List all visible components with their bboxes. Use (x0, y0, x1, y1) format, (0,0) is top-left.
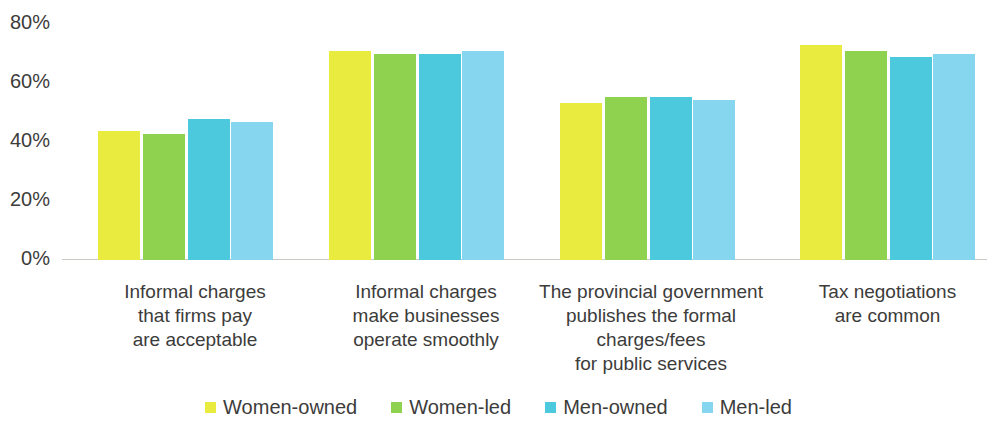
y-tick-label: 20% (10, 189, 50, 209)
bar-men-owned (890, 57, 932, 260)
legend-item-men-led: Men-led (702, 396, 792, 418)
bar-men-owned (650, 97, 692, 260)
y-tick-label: 40% (10, 130, 50, 150)
bar-men-led (462, 51, 504, 260)
bar-men-owned (188, 119, 230, 260)
legend: Women-owned Women-led Men-owned Men-led (0, 396, 997, 418)
bar-men-led (693, 100, 735, 260)
bar-group (560, 14, 735, 260)
legend-swatch-icon (205, 402, 216, 413)
plot-area: Informal charges that firms pay are acce… (62, 14, 987, 260)
bar-women-led (845, 51, 887, 260)
y-tick-label: 60% (10, 71, 50, 91)
category-label: Tax negotiations are common (785, 280, 990, 328)
legend-item-men-owned: Men-owned (545, 396, 668, 418)
legend-label: Women-led (409, 396, 511, 418)
bar-women-owned (560, 103, 602, 260)
y-axis: 80% 60% 40% 20% 0% (0, 0, 58, 280)
bar-women-owned (329, 51, 371, 260)
category-label: Informal charges that firms pay are acce… (80, 280, 310, 352)
legend-label: Men-owned (563, 396, 668, 418)
category-label: The provincial government publishes the … (520, 280, 782, 376)
legend-item-women-led: Women-led (391, 396, 511, 418)
bar-chart: 80% 60% 40% 20% 0% (0, 0, 997, 422)
legend-item-women-owned: Women-owned (205, 396, 357, 418)
y-tick-label: 0% (21, 248, 50, 268)
bar-men-led (933, 54, 975, 260)
bar-women-owned (98, 131, 140, 260)
legend-label: Women-owned (223, 396, 357, 418)
bar-group (800, 14, 975, 260)
legend-swatch-icon (702, 402, 713, 413)
legend-swatch-icon (391, 402, 402, 413)
bar-group (98, 14, 273, 260)
bar-women-led (605, 97, 647, 260)
category-label: Informal charges make businesses operate… (311, 280, 541, 352)
bar-women-led (143, 134, 185, 260)
legend-label: Men-led (720, 396, 792, 418)
bar-men-led (231, 122, 273, 260)
legend-swatch-icon (545, 402, 556, 413)
bar-group (329, 14, 504, 260)
bar-men-owned (419, 54, 461, 260)
bar-women-owned (800, 45, 842, 260)
y-tick-label: 80% (10, 12, 50, 32)
bar-women-led (374, 54, 416, 260)
